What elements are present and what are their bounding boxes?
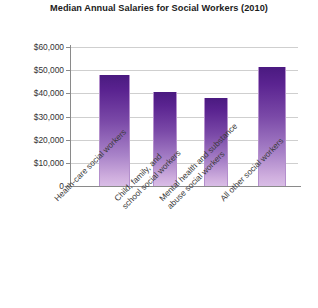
bar[interactable] [153, 92, 177, 186]
y-axis-tick-label: $10,000 [34, 159, 64, 167]
y-axis-tick-label: $40,000 [34, 89, 64, 97]
y-axis-tick-label: 0 [59, 182, 64, 190]
bar[interactable] [258, 67, 286, 186]
bar-chart-figure: Median Annual Salaries for Social Worker… [0, 0, 318, 308]
plot-area [71, 47, 298, 186]
y-axis-tick-label: $50,000 [34, 66, 64, 74]
bar[interactable] [204, 98, 228, 187]
y-axis-tick-mark [66, 186, 71, 187]
y-axis-tick-label: $30,000 [34, 113, 64, 121]
chart-title: Median Annual Salaries for Social Worker… [0, 3, 318, 13]
y-axis-tick-label: $20,000 [34, 136, 64, 144]
y-axis-tick-label: $60,000 [34, 43, 64, 51]
x-axis-line [70, 186, 301, 187]
bar[interactable] [99, 75, 130, 186]
